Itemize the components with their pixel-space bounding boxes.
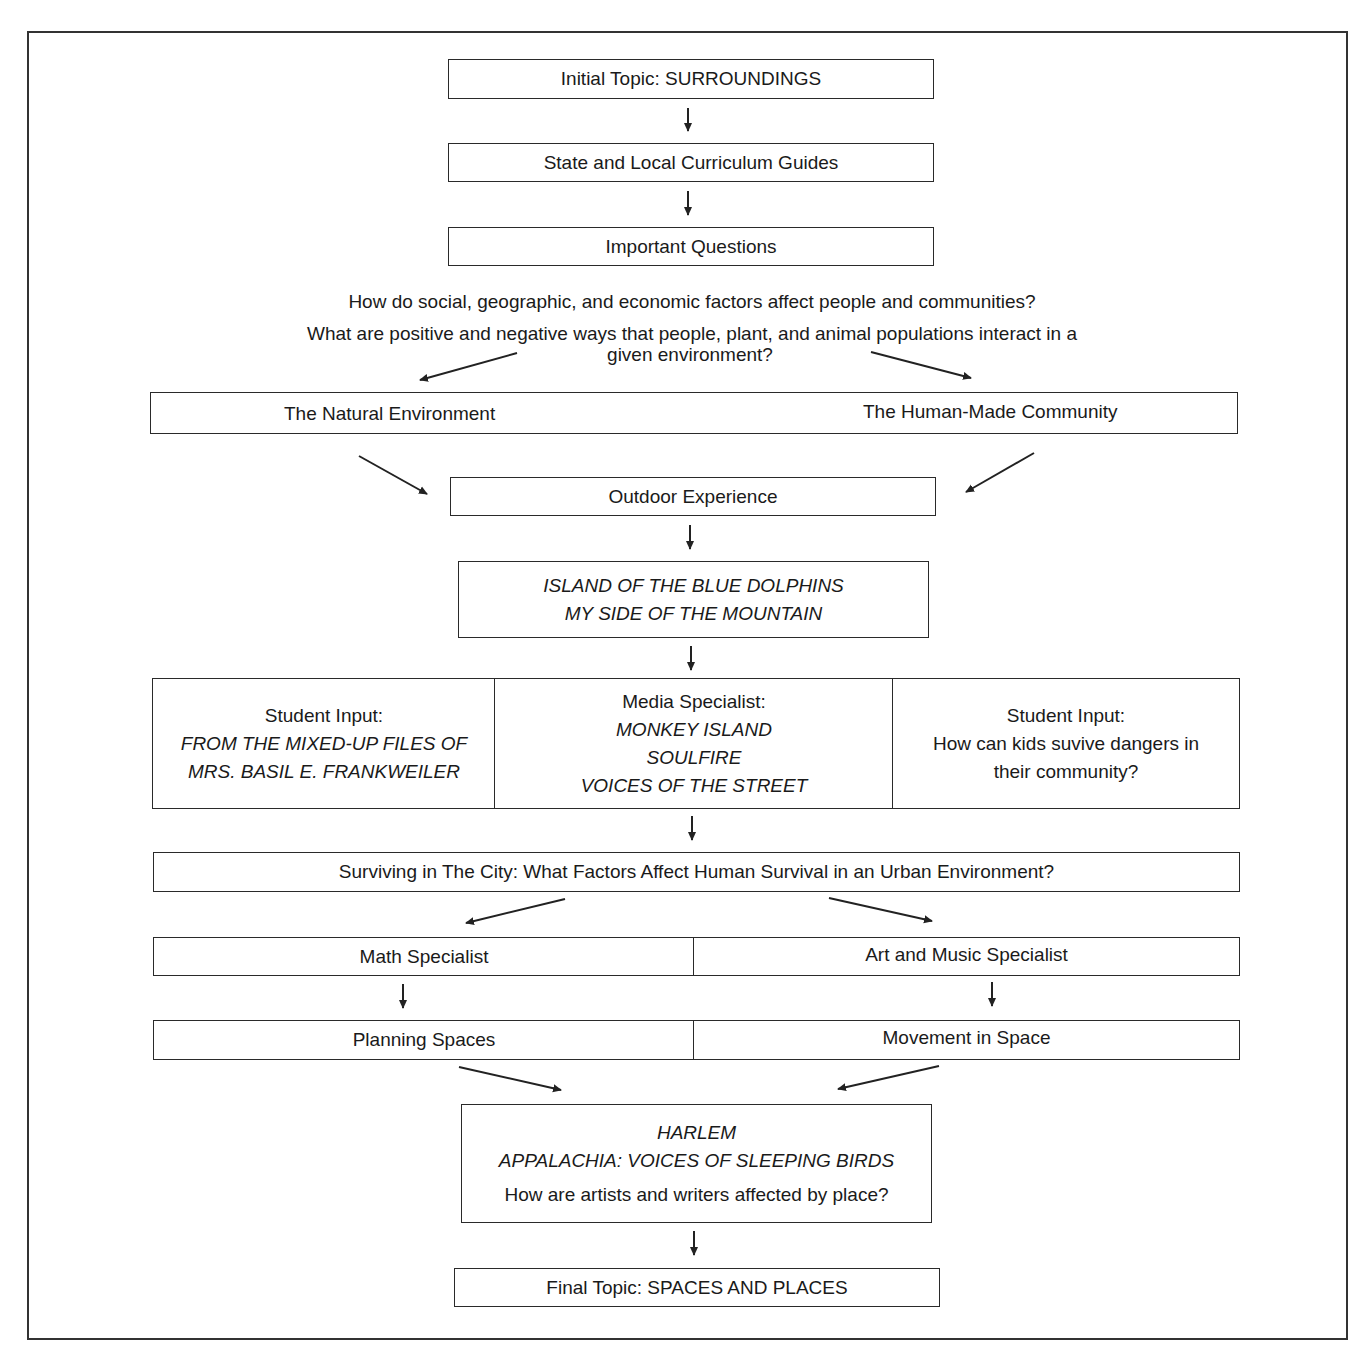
- books-box-2: HARLEM APPALACHIA: VOICES OF SLEEPING BI…: [461, 1104, 932, 1223]
- surviving-city-box: Surviving in The City: What Factors Affe…: [153, 852, 1240, 892]
- art-music-specialist: Art and Music Specialist: [694, 938, 1239, 975]
- student-input-heading: Student Input:: [1007, 702, 1125, 730]
- student-question: How can kids suvive dangers in: [933, 730, 1199, 758]
- planning-spaces-label: Planning Spaces: [353, 1026, 496, 1054]
- book-title: SOULFIRE: [646, 744, 741, 772]
- question-2-continued: given environment?: [490, 343, 890, 367]
- book-title: VOICES OF THE STREET: [581, 772, 808, 800]
- book-title: MONKEY ISLAND: [616, 716, 772, 744]
- book-title: MRS. BASIL E. FRANKWEILER: [188, 758, 460, 786]
- natural-environment-label: The Natural Environment: [284, 400, 495, 428]
- planning-spaces: Planning Spaces: [154, 1021, 694, 1059]
- human-made-community-label: The Human-Made Community: [863, 398, 1117, 426]
- initial-topic-box: Initial Topic: SURROUNDINGS: [448, 59, 934, 99]
- curriculum-guides-label: State and Local Curriculum Guides: [544, 149, 839, 177]
- book-title: APPALACHIA: VOICES OF SLEEPING BIRDS: [499, 1147, 894, 1175]
- environment-branches-box: The Natural Environment The Human-Made C…: [150, 392, 1238, 434]
- book-title: HARLEM: [657, 1119, 736, 1147]
- student-input-heading: Student Input:: [265, 702, 383, 730]
- art-music-specialist-label: Art and Music Specialist: [865, 941, 1068, 969]
- curriculum-guides-box: State and Local Curriculum Guides: [448, 143, 934, 182]
- question-1: How do social, geographic, and economic …: [200, 289, 1184, 315]
- media-specialist: Media Specialist: MONKEY ISLAND SOULFIRE…: [495, 679, 893, 808]
- surviving-city-label: Surviving in The City: What Factors Affe…: [339, 858, 1054, 886]
- inputs-row: Student Input: FROM THE MIXED-UP FILES O…: [152, 678, 1240, 809]
- important-questions-box: Important Questions: [448, 227, 934, 266]
- movement-in-space-label: Movement in Space: [883, 1024, 1051, 1052]
- final-topic-label: Final Topic: SPACES AND PLACES: [546, 1274, 847, 1302]
- media-specialist-heading: Media Specialist:: [622, 688, 766, 716]
- student-question: their community?: [994, 758, 1139, 786]
- math-specialist: Math Specialist: [154, 938, 694, 975]
- movement-in-space: Movement in Space: [694, 1021, 1239, 1059]
- important-questions-label: Important Questions: [605, 233, 776, 261]
- specialists-row: Math Specialist Art and Music Specialist: [153, 937, 1240, 976]
- initial-topic-label: Initial Topic: SURROUNDINGS: [561, 65, 821, 93]
- book-title: ISLAND OF THE BLUE DOLPHINS: [543, 572, 844, 600]
- student-input-left: Student Input: FROM THE MIXED-UP FILES O…: [153, 679, 495, 808]
- book-title: MY SIDE OF THE MOUNTAIN: [565, 600, 823, 628]
- book-title: FROM THE MIXED-UP FILES OF: [181, 730, 467, 758]
- student-input-right: Student Input: How can kids suvive dange…: [893, 679, 1239, 808]
- outdoor-experience-label: Outdoor Experience: [609, 483, 778, 511]
- final-topic-box: Final Topic: SPACES AND PLACES: [454, 1268, 940, 1307]
- activities-row: Planning Spaces Movement in Space: [153, 1020, 1240, 1060]
- math-specialist-label: Math Specialist: [360, 943, 489, 971]
- artists-question: How are artists and writers affected by …: [504, 1181, 888, 1209]
- outdoor-experience-box: Outdoor Experience: [450, 477, 936, 516]
- books-box-1: ISLAND OF THE BLUE DOLPHINS MY SIDE OF T…: [458, 561, 929, 638]
